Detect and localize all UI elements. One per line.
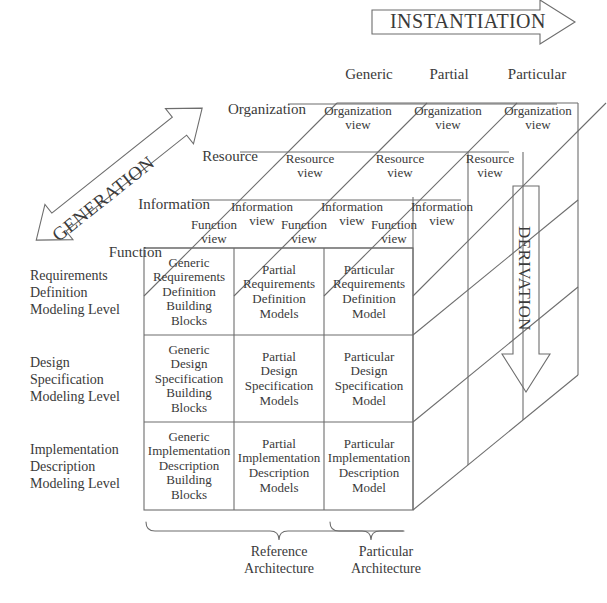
particular-architecture-label: ParticularArchitecture: [302, 544, 470, 578]
front-cell-text: GenericRequirementsDefinitionBuildingBlo…: [145, 256, 233, 329]
instantiation-axis-label: INSTANTIATION: [390, 10, 546, 33]
side-face-bottom-edge: [413, 375, 578, 510]
top-face-cell-function-particular: Functionview: [346, 218, 442, 247]
front-cell-text: PartialRequirementsDefinitionModels: [235, 263, 323, 321]
front-cell-text: PartialDesignSpecificationModels: [235, 350, 323, 408]
top-face-cell-resource-particular: Resourceview: [442, 152, 538, 181]
front-cell-requirements-generic: GenericRequirementsDefinitionBuildingBlo…: [145, 249, 233, 335]
top-face-cell-organization-generic: Organizationview: [310, 104, 406, 133]
side-face-row-line-2: [413, 287, 578, 422]
front-cell-design-particular: ParticularDesignSpecificationModel: [325, 336, 413, 422]
column-header-generic: Generic: [334, 66, 404, 83]
top-face-cell-function-generic: Functionview: [166, 218, 262, 247]
front-cell-design-generic: GenericDesignSpecificationBuildingBlocks: [145, 336, 233, 422]
derivation-axis-label: DERIVATION: [514, 226, 534, 331]
front-cell-text: ParticularImplementationDescriptionModel: [325, 437, 413, 495]
generation-row-label-resource: Resource: [130, 148, 258, 165]
top-face-cell-resource-generic: Resourceview: [262, 152, 358, 181]
modeling-level-label-design: DesignSpecificationModeling Level: [30, 354, 142, 405]
column-header-partial: Partial: [414, 66, 484, 83]
front-cell-text: PartialImplementationDescriptionModels: [235, 437, 323, 495]
top-face-cell-resource-partial: Resourceview: [352, 152, 448, 181]
geram-cube-figure: INSTANTIATION GENERATION DERIVATION Gene…: [0, 0, 607, 603]
modeling-level-label-requirements: RequirementsDefinitionModeling Level: [30, 267, 142, 318]
front-cell-implementation-generic: GenericImplementationDescriptionBuilding…: [145, 423, 233, 509]
top-face-cell-organization-particular: Organizationview: [490, 104, 586, 133]
front-cell-design-partial: PartialDesignSpecificationModels: [235, 336, 323, 422]
column-header-particular: Particular: [494, 66, 580, 83]
front-cell-text: GenericDesignSpecificationBuildingBlocks: [145, 343, 233, 416]
front-cell-requirements-particular: ParticularRequirementsDefinitionModel: [325, 249, 413, 335]
generation-row-label-organization: Organization: [178, 101, 306, 118]
front-cell-requirements-partial: PartialRequirementsDefinitionModels: [235, 249, 323, 335]
generation-row-label-function: Function: [34, 244, 162, 261]
generation-row-label-information: Information: [82, 196, 210, 213]
modeling-level-label-implementation: ImplementationDescriptionModeling Level: [30, 441, 148, 492]
front-cell-implementation-partial: PartialImplementationDescriptionModels: [235, 423, 323, 509]
front-cell-text: GenericImplementationDescriptionBuilding…: [145, 430, 233, 503]
front-cell-text: ParticularDesignSpecificationModel: [325, 350, 413, 408]
top-face-cell-function-partial: Functionview: [256, 218, 352, 247]
top-face-cell-organization-partial: Organizationview: [400, 104, 496, 133]
front-cell-implementation-particular: ParticularImplementationDescriptionModel: [325, 423, 413, 509]
front-cell-text: ParticularRequirementsDefinitionModel: [325, 263, 413, 321]
